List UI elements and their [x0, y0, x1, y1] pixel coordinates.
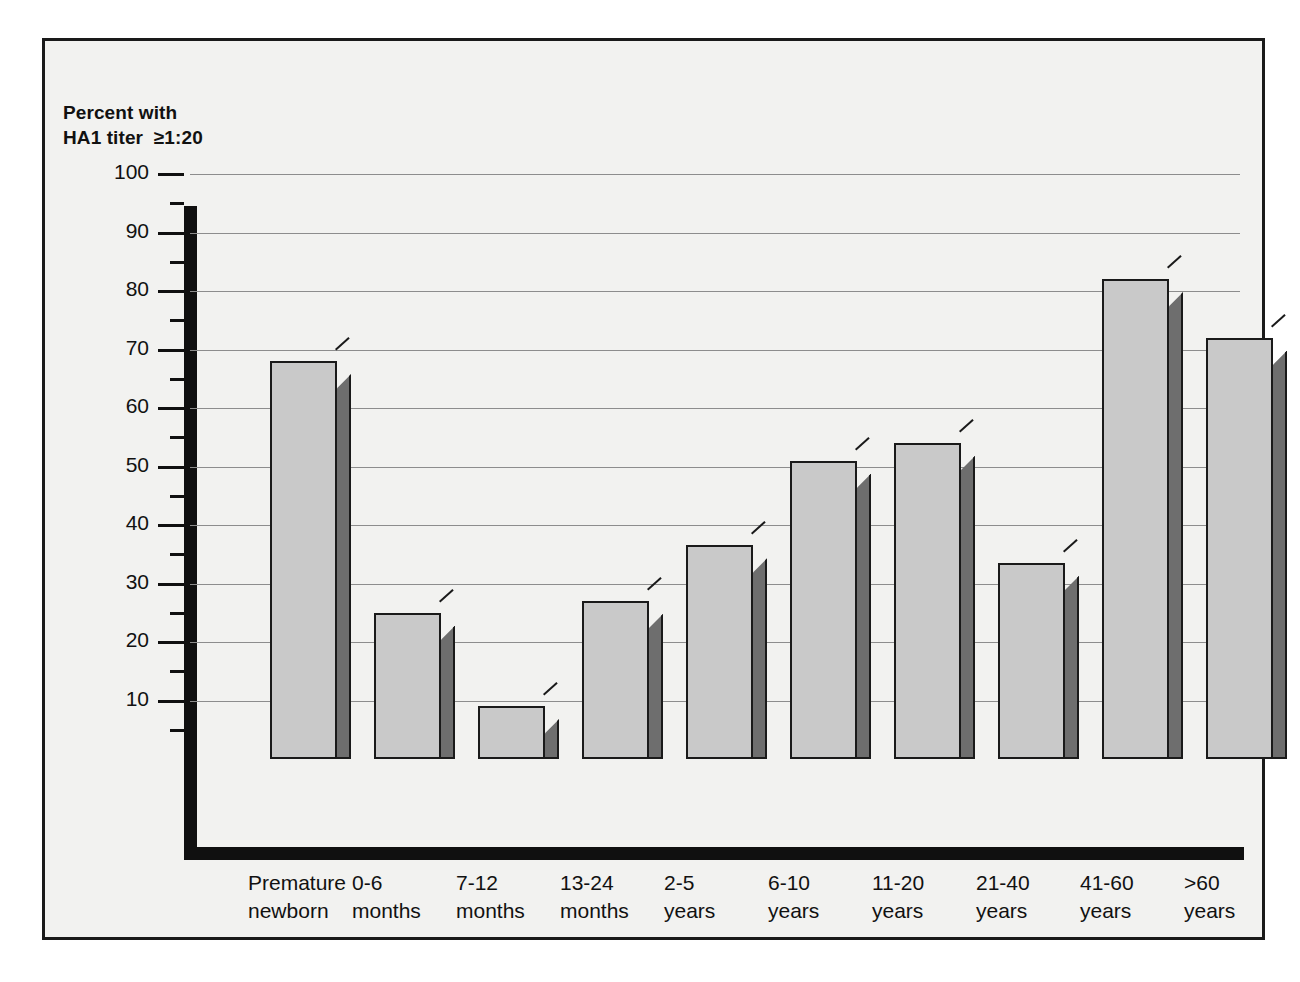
- y-tick-label-80: 80: [59, 277, 149, 301]
- y-axis-caption-line1: Percent with: [63, 102, 177, 123]
- bar-front-face: [894, 443, 961, 759]
- bar-top-bevel: [1167, 255, 1194, 282]
- bar-front-face: [582, 601, 649, 759]
- y-tick-label-20: 20: [59, 628, 149, 652]
- y-tick-label-60: 60: [59, 394, 149, 418]
- bar-top-bevel: [543, 682, 570, 709]
- figure-frame: Percent withHA1 titer ≥1:20 102030405060…: [42, 38, 1265, 940]
- gridline-100: [190, 174, 1240, 175]
- y-tick-major-80: [158, 290, 184, 293]
- bar-top-bevel: [335, 337, 362, 364]
- bar-side-face: [753, 558, 767, 759]
- bar: [1102, 279, 1183, 759]
- plot-area: [190, 174, 1240, 759]
- bar-front-face: [1206, 338, 1273, 759]
- y-tick-minor-65: [170, 378, 184, 381]
- bar-side-face: [545, 719, 559, 759]
- bar-side-face: [337, 374, 351, 759]
- y-tick-major-40: [158, 524, 184, 527]
- y-tick-minor-95: [170, 202, 184, 205]
- y-tick-minor-75: [170, 319, 184, 322]
- bar-side-face: [1169, 292, 1183, 759]
- y-tick-major-90: [158, 232, 184, 235]
- bar-top-bevel: [855, 437, 882, 464]
- y-tick-label-90: 90: [59, 219, 149, 243]
- bar-top-bevel: [959, 419, 986, 446]
- y-tick-minor-45: [170, 495, 184, 498]
- y-tick-label-50: 50: [59, 453, 149, 477]
- bar-front-face: [478, 706, 545, 759]
- bar: [374, 613, 455, 759]
- bar-side-face: [441, 626, 455, 759]
- bar: [894, 443, 975, 759]
- bar: [998, 563, 1079, 759]
- bar: [1206, 338, 1287, 759]
- gridline-90: [190, 233, 1240, 234]
- y-tick-minor-5: [170, 729, 184, 732]
- bar-top-bevel: [1063, 539, 1090, 566]
- bar: [478, 706, 559, 759]
- y-tick-major-30: [158, 583, 184, 586]
- y-tick-minor-15: [170, 670, 184, 673]
- bar-front-face: [270, 361, 337, 759]
- bar-top-bevel: [1271, 314, 1298, 341]
- bar-front-face: [790, 461, 857, 759]
- y-tick-label-40: 40: [59, 511, 149, 535]
- y-tick-label-70: 70: [59, 336, 149, 360]
- y-tick-major-100: [158, 173, 184, 176]
- bar-front-face: [374, 613, 441, 759]
- y-tick-minor-35: [170, 553, 184, 556]
- bar: [582, 601, 663, 759]
- x-axis-label: >60 years: [1184, 869, 1300, 924]
- y-tick-label-10: 10: [59, 687, 149, 711]
- bar-front-face: [686, 545, 753, 759]
- y-axis-caption-line2: HA1 titer ≥1:20: [63, 127, 203, 148]
- y-axis-caption: Percent withHA1 titer ≥1:20: [63, 101, 203, 150]
- bar-front-face: [1102, 279, 1169, 759]
- x-axis-line: [184, 847, 1244, 860]
- y-tick-major-50: [158, 466, 184, 469]
- y-tick-major-60: [158, 407, 184, 410]
- y-tick-minor-85: [170, 261, 184, 264]
- bar: [790, 461, 871, 759]
- bar-front-face: [998, 563, 1065, 759]
- y-tick-major-70: [158, 349, 184, 352]
- y-tick-minor-25: [170, 612, 184, 615]
- y-tick-major-20: [158, 641, 184, 644]
- bar: [270, 361, 351, 759]
- y-tick-label-30: 30: [59, 570, 149, 594]
- bar-top-bevel: [647, 577, 674, 604]
- y-tick-label-100: 100: [59, 160, 149, 184]
- bar-top-bevel: [439, 589, 466, 616]
- bar-side-face: [649, 614, 663, 759]
- bar-side-face: [857, 474, 871, 759]
- gridline-80: [190, 291, 1240, 292]
- bar-side-face: [1065, 576, 1079, 759]
- bar: [686, 545, 767, 759]
- bar-side-face: [1273, 351, 1287, 759]
- y-tick-major-10: [158, 700, 184, 703]
- y-tick-minor-55: [170, 436, 184, 439]
- bar-side-face: [961, 456, 975, 759]
